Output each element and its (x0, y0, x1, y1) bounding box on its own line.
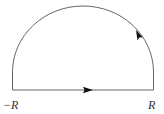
label-minus-r: −R (3, 98, 19, 112)
semicircle-arc (13, 6, 154, 90)
baseline-arrow-icon (83, 87, 93, 93)
contour-diagram: −R R (0, 0, 164, 114)
label-r: R (147, 98, 156, 112)
